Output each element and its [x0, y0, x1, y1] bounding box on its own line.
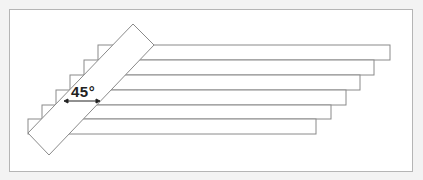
stair-board-diagram — [0, 0, 423, 180]
angle-label: 45° — [71, 83, 95, 100]
